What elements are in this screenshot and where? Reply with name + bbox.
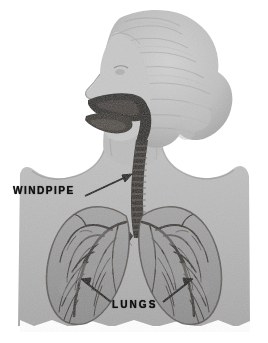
anatomy-illustration (0, 0, 268, 343)
lungs-label: LUNGS (112, 298, 158, 310)
respiratory-system-figure: WINDPIPE LUNGS (0, 0, 268, 343)
windpipe-label: WINDPIPE (13, 184, 75, 196)
